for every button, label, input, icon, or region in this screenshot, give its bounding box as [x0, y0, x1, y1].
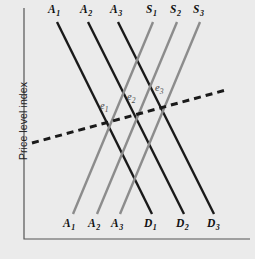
- label-base: A: [111, 217, 119, 229]
- top-label-A1: A1: [48, 4, 60, 18]
- label-subscript: 2: [176, 9, 181, 18]
- label-base: A: [88, 217, 96, 229]
- label-subscript: 1: [71, 223, 76, 232]
- bottom-label-D1: D1: [144, 218, 157, 232]
- label-subscript: 3: [118, 9, 123, 18]
- label-base: A: [63, 217, 71, 229]
- bottom-label-A2b: A2: [88, 218, 100, 232]
- axis-frame: [24, 8, 250, 239]
- chart-axes: [24, 8, 250, 239]
- label-subscript: 2: [96, 223, 101, 232]
- label-subscript: 2: [132, 96, 136, 105]
- label-subscript: 3: [199, 9, 204, 18]
- economics-chart-figure: Price level index A1A2A3S1S2S3A1A2A3D1D2…: [0, 0, 255, 259]
- equilibrium-label-e2: e2: [127, 92, 135, 105]
- label-subscript: 3: [215, 223, 220, 232]
- label-base: A: [48, 3, 56, 15]
- label-subscript: 1: [152, 9, 157, 18]
- top-label-S3: S3: [193, 4, 204, 18]
- equilibrium-label-e3: e3: [155, 83, 163, 96]
- label-subscript: 2: [184, 223, 189, 232]
- label-subscript: 3: [119, 223, 124, 232]
- chart-curves: [32, 22, 226, 214]
- bottom-label-A1b: A1: [63, 218, 75, 232]
- label-subscript: 1: [56, 9, 61, 18]
- label-subscript: 1: [105, 105, 109, 114]
- top-label-A3: A3: [110, 4, 122, 18]
- label-subscript: 3: [160, 87, 164, 96]
- bottom-label-D3: D3: [207, 218, 220, 232]
- top-label-A2: A2: [80, 4, 92, 18]
- top-label-S1: S1: [146, 4, 157, 18]
- bottom-label-D2: D2: [176, 218, 189, 232]
- y-axis-label: Price level index: [17, 51, 29, 191]
- label-subscript: 2: [88, 9, 93, 18]
- top-label-S2: S2: [170, 4, 181, 18]
- label-subscript: 1: [152, 223, 157, 232]
- equilibrium-label-e1: e1: [100, 101, 108, 114]
- label-base: A: [110, 3, 118, 15]
- bottom-label-A3b: A3: [111, 218, 123, 232]
- curve-S1: [73, 22, 153, 214]
- label-base: A: [80, 3, 88, 15]
